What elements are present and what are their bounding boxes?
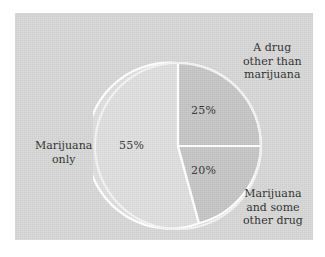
slice-value-marijuana-only: 55%: [119, 139, 144, 152]
label-other-drug-line3: marijuana: [243, 68, 302, 82]
slice-value-marijuana-and-other: 20%: [191, 164, 216, 177]
label-marijuana-only-line1: Marijuana: [35, 139, 92, 153]
label-marijuana-only-line2: only: [35, 153, 92, 167]
chart-panel: 55% 25% 20% Marijuana only A drug other …: [15, 13, 313, 240]
label-other-drug: A drug other than marijuana: [243, 41, 302, 82]
label-other-drug-line1: A drug: [243, 41, 302, 55]
slice-value-other-drug: 25%: [191, 104, 216, 117]
label-marijuana-and-other: Marijuana and some other drug: [243, 187, 303, 228]
label-other-drug-line2: other than: [243, 55, 302, 69]
label-marijuana-only: Marijuana only: [35, 139, 92, 166]
label-marijuana-and-other-line3: other drug: [243, 214, 303, 228]
pie-chart-figure: 55% 25% 20% Marijuana only A drug other …: [0, 0, 325, 257]
label-marijuana-and-other-line2: and some: [243, 201, 303, 215]
label-marijuana-and-other-line1: Marijuana: [243, 187, 303, 201]
